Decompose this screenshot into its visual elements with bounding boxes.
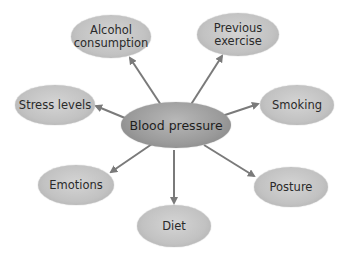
node-smoking: Smoking (260, 85, 334, 125)
node-label-line1: Previous (214, 22, 263, 35)
arrow-to-emotions (111, 144, 152, 172)
arrow-to-smoking (222, 104, 258, 116)
node-label: Diet (162, 220, 186, 233)
node-label: Emotions (49, 179, 103, 192)
node-emotions: Emotions (38, 165, 114, 205)
node-label-line2: exercise (214, 35, 261, 48)
arrow-to-stress (96, 106, 125, 118)
node-label: Posture (270, 181, 313, 194)
node-alcohol-consumption: Alcohol consumption (71, 15, 151, 58)
arrow-to-posture (204, 145, 254, 176)
center-label: Blood pressure (129, 119, 222, 132)
node-label: Stress levels (19, 99, 91, 112)
node-label-line1: Alcohol (90, 24, 132, 37)
node-posture: Posture (254, 167, 328, 207)
node-stress-levels: Stress levels (15, 85, 95, 125)
node-diet: Diet (137, 205, 211, 247)
node-label: Smoking (272, 99, 322, 112)
arrow-to-alcohol (130, 58, 163, 108)
node-label-line2: consumption (74, 37, 148, 50)
node-blood-pressure: Blood pressure (121, 102, 231, 148)
arrow-to-exercise (190, 56, 222, 106)
node-previous-exercise: Previous exercise (197, 13, 279, 56)
